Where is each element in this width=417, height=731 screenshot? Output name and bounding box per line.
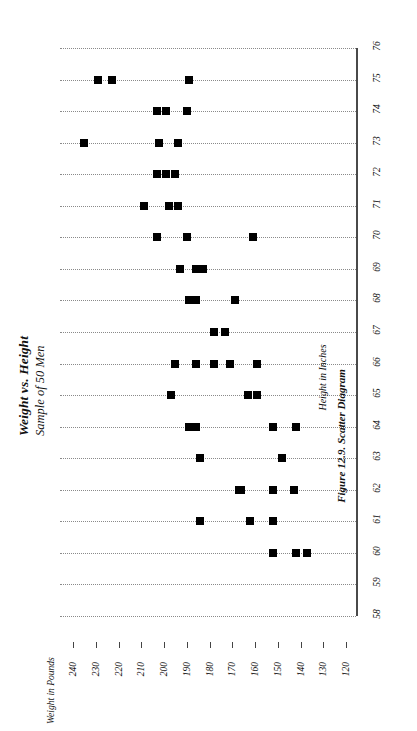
value-tick-label: 180 [205, 656, 215, 682]
category-tick-label: 76 [372, 35, 382, 57]
data-point [246, 517, 254, 525]
gridline-row [60, 300, 356, 301]
data-point [153, 233, 161, 241]
data-point [210, 360, 218, 368]
gridline-row [60, 490, 356, 491]
gridline-row [60, 206, 356, 207]
scatter-plot: 5859606162636465666768697071727374757624… [0, 0, 417, 731]
data-point [153, 170, 161, 178]
data-point [192, 360, 200, 368]
category-tick-label: 74 [372, 98, 382, 120]
value-tick-mark [232, 642, 233, 648]
gridline-row [60, 584, 356, 585]
data-point [269, 517, 277, 525]
data-point [253, 391, 261, 399]
data-point [269, 549, 277, 557]
data-point [183, 107, 191, 115]
gridline-row [60, 427, 356, 428]
data-point [278, 454, 286, 462]
gridline-row [60, 237, 356, 238]
data-point [253, 360, 261, 368]
data-point [108, 76, 116, 84]
data-point [199, 265, 207, 273]
value-tick-label: 200 [159, 656, 169, 682]
category-tick-label: 61 [372, 508, 382, 530]
data-point [292, 549, 300, 557]
data-point [155, 139, 163, 147]
data-point [196, 454, 204, 462]
gridline-row [60, 521, 356, 522]
data-point [226, 360, 234, 368]
data-point [174, 202, 182, 210]
gridline-row [60, 111, 356, 112]
value-tick-mark [141, 642, 142, 648]
category-tick-label: 59 [372, 571, 382, 593]
data-point [269, 486, 277, 494]
category-tick-label: 66 [372, 351, 382, 373]
data-point [292, 423, 300, 431]
gridline-row [60, 174, 356, 175]
gridline-row [60, 143, 356, 144]
data-point [235, 486, 243, 494]
category-tick-label: 75 [372, 67, 382, 89]
data-point [244, 391, 252, 399]
gridline-row [60, 332, 356, 333]
data-point [192, 296, 200, 304]
category-tick-label: 60 [372, 540, 382, 562]
value-tick-mark [73, 642, 74, 648]
value-axis-title: Weight in Pounds [46, 614, 56, 724]
category-tick-label: 65 [372, 382, 382, 404]
value-tick-mark [323, 642, 324, 648]
category-tick-label: 70 [372, 224, 382, 246]
data-point [183, 233, 191, 241]
gridline-row [60, 395, 356, 396]
data-point [231, 296, 239, 304]
category-tick-label: 69 [372, 256, 382, 278]
gridline-row [60, 80, 356, 81]
value-tick-label: 230 [91, 656, 101, 682]
category-axis-line [356, 48, 358, 616]
data-point [290, 486, 298, 494]
value-tick-label: 120 [341, 656, 351, 682]
value-tick-label: 190 [182, 656, 192, 682]
value-tick-mark [255, 642, 256, 648]
category-tick-label: 72 [372, 161, 382, 183]
data-point [140, 202, 148, 210]
data-point [192, 423, 200, 431]
category-tick-label: 64 [372, 414, 382, 436]
data-point [171, 360, 179, 368]
data-point [210, 328, 218, 336]
value-tick-label: 170 [227, 656, 237, 682]
category-tick-label: 71 [372, 193, 382, 215]
category-axis-title: Height in Inches [317, 318, 328, 438]
data-point [269, 423, 277, 431]
data-point [162, 107, 170, 115]
data-point [153, 107, 161, 115]
gridline-row [60, 616, 356, 617]
value-tick-mark [187, 642, 188, 648]
value-tick-label: 210 [136, 656, 146, 682]
data-point [221, 328, 229, 336]
data-point [171, 170, 179, 178]
value-tick-label: 130 [318, 656, 328, 682]
category-tick-label: 73 [372, 130, 382, 152]
data-point [174, 139, 182, 147]
data-point [80, 139, 88, 147]
gridline-row [60, 269, 356, 270]
gridline-row [60, 364, 356, 365]
value-tick-mark [164, 642, 165, 648]
data-point [176, 265, 184, 273]
value-tick-label: 220 [114, 656, 124, 682]
data-point [165, 202, 173, 210]
data-point [303, 549, 311, 557]
category-tick-label: 63 [372, 445, 382, 467]
category-tick-label: 68 [372, 287, 382, 309]
value-tick-mark [210, 642, 211, 648]
data-point [196, 517, 204, 525]
value-tick-mark [301, 642, 302, 648]
gridline-row [60, 553, 356, 554]
data-point [94, 76, 102, 84]
value-tick-mark [278, 642, 279, 648]
value-tick-label: 150 [273, 656, 283, 682]
value-tick-label: 240 [68, 656, 78, 682]
